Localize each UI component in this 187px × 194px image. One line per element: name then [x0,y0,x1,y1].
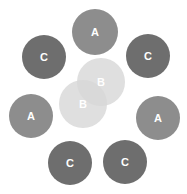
cluster-node-a-right[interactable]: A [136,96,180,140]
cluster-node-b-lower[interactable]: B [59,80,107,128]
cluster-node-label: B [79,99,87,110]
cluster-node-a-left[interactable]: A [9,94,53,138]
cluster-node-a-top[interactable]: A [72,9,118,55]
cluster-node-c-bottom-right[interactable]: C [103,140,147,184]
cluster-node-label: A [91,27,99,38]
cluster-node-label: C [144,51,152,62]
cluster-node-label: C [121,157,129,168]
cluster-node-c-bottom-left[interactable]: C [48,141,92,185]
cluster-diagram-canvas: ACCBBAACC [0,0,187,194]
cluster-node-label: C [40,52,48,63]
cluster-node-label: A [27,111,35,122]
cluster-node-c-top-right[interactable]: C [126,34,170,78]
cluster-node-label: A [154,113,162,124]
cluster-node-c-top-left[interactable]: C [22,35,66,79]
cluster-node-label: C [66,158,74,169]
